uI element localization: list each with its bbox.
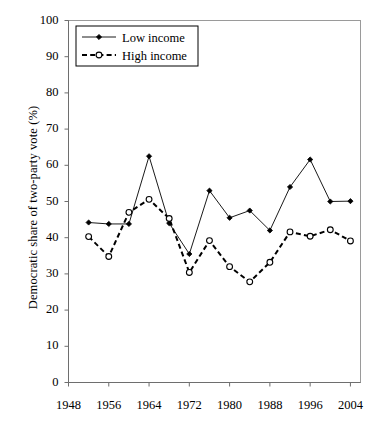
legend-item-label: High income xyxy=(122,49,187,63)
y-tick-label: 40 xyxy=(29,231,59,244)
y-axis-title: Democratic share of two-party vote (%) xyxy=(26,78,41,338)
chart-figure: Democratic share of two-party vote (%) 0… xyxy=(0,0,374,428)
y-tick-label: 20 xyxy=(29,303,59,316)
plot-canvas: Low incomeHigh income xyxy=(0,0,374,428)
chart-legend: Low incomeHigh income xyxy=(76,26,198,66)
y-tick-label: 100 xyxy=(29,14,59,27)
y-tick-label: 80 xyxy=(29,86,59,99)
series-high-income xyxy=(86,196,354,284)
y-tick-label: 0 xyxy=(29,376,59,389)
y-tick-label: 30 xyxy=(29,267,59,280)
axis-lines xyxy=(69,21,361,383)
y-tick-label: 10 xyxy=(29,339,59,352)
y-tick-label: 90 xyxy=(29,50,59,63)
series-low-income xyxy=(86,154,353,257)
data-series-layer xyxy=(86,154,354,285)
y-tick-label: 60 xyxy=(29,158,59,171)
x-tick-label: 2004 xyxy=(325,399,374,412)
axis-tick-marks xyxy=(65,21,351,387)
y-tick-label: 50 xyxy=(29,195,59,208)
y-tick-label: 70 xyxy=(29,122,59,135)
legend-item-label: Low income xyxy=(122,31,185,45)
